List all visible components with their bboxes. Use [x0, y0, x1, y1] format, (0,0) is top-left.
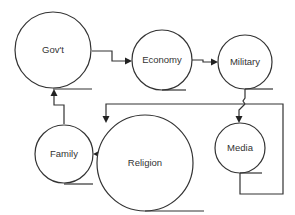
- node-military[interactable]: Military: [218, 35, 273, 89]
- edge-govt-economy: [92, 51, 126, 61]
- node-govt[interactable]: Gov't: [15, 12, 92, 89]
- edge-military-branch: [243, 89, 245, 104]
- node-economy-label: Economy: [142, 54, 182, 65]
- node-govt-label: Gov't: [42, 44, 64, 55]
- node-religion[interactable]: Religion: [97, 115, 204, 211]
- node-media-label: Media: [227, 142, 254, 153]
- node-family-label: Family: [50, 148, 78, 159]
- arrow-head-govt: [51, 89, 58, 96]
- node-family[interactable]: Family: [35, 125, 93, 184]
- arrow-head-economy: [125, 58, 132, 65]
- node-religion-label: Religion: [128, 157, 162, 168]
- node-economy[interactable]: Economy: [132, 30, 192, 90]
- edge-military-religion: [106, 104, 244, 117]
- node-media[interactable]: Media: [215, 123, 265, 173]
- edge-military-media: [239, 104, 245, 117]
- diagram-canvas: Gov't Economy Military Religion Family M…: [0, 0, 295, 215]
- arrow-head-religion: [103, 116, 110, 123]
- node-military-label: Military: [230, 56, 260, 67]
- arrow-head-media: [236, 116, 243, 123]
- edge-family-govt: [54, 96, 64, 124]
- arrow-head-military: [211, 59, 218, 66]
